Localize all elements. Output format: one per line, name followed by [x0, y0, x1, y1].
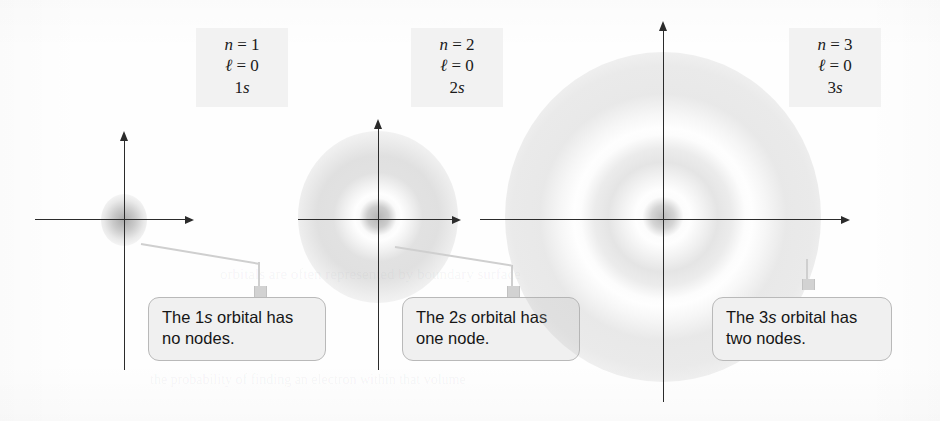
qn-term-1s: 1s	[206, 78, 278, 99]
callout-leader-stem-3s	[806, 259, 808, 281]
callout-1s: The 1s orbital has no nodes.	[148, 297, 326, 361]
ghost-text-line-1: orbitals are often represented by bounda…	[220, 266, 521, 283]
callout-leader-line-2s	[395, 246, 512, 266]
qn-n-3s: n = 3	[799, 35, 871, 56]
qn-term-letter-1s: s	[243, 78, 250, 97]
qn-l-symbol-1s: ℓ	[225, 56, 232, 75]
qn-n-1s: n = 1	[206, 35, 278, 56]
qn-l-1s: ℓ = 0	[206, 56, 278, 77]
x-axis-2s	[298, 219, 454, 220]
qn-l-value-3s: = 0	[830, 56, 852, 75]
callout-leader-stem-1s	[258, 262, 260, 288]
callout-2s-line-1: The 2s orbital has	[416, 307, 566, 328]
quantum-numbers-3s: n = 3 ℓ = 0 3s	[789, 28, 881, 107]
qn-n-symbol-3s: n	[817, 35, 826, 54]
qn-term-letter-2s: s	[458, 78, 465, 97]
callout-3s-line-2: two nodes.	[726, 328, 878, 349]
y-axis-arrowhead-1s	[120, 131, 128, 141]
callout-1s-line-2: no nodes.	[162, 328, 312, 349]
y-axis-2s	[378, 128, 379, 370]
qn-n-value-2s: = 2	[452, 35, 474, 54]
callout-leader-pin-2s	[507, 286, 520, 297]
qn-n-symbol-2s: n	[439, 35, 448, 54]
callout-2s-line-2: one node.	[416, 328, 566, 349]
qn-term-2s: 2s	[421, 78, 493, 99]
quantum-numbers-2s: n = 2 ℓ = 0 2s	[411, 28, 503, 107]
callout-leader-stem-2s	[511, 265, 513, 288]
callout-3s: The 3s orbital has two nodes.	[712, 297, 892, 361]
callout-leader-line-1s	[141, 243, 259, 265]
x-axis-arrowhead-1s	[185, 216, 194, 224]
qn-term-number-2s: 2	[449, 78, 458, 97]
qn-l-symbol-3s: ℓ	[818, 56, 825, 75]
orbital-figure: orbitals are often represented by bounda…	[0, 0, 940, 421]
qn-n-value-3s: = 3	[830, 35, 852, 54]
qn-term-number-1s: 1	[234, 78, 243, 97]
x-axis-1s	[35, 219, 187, 220]
x-axis-3s	[480, 219, 843, 220]
ghost-text-line-2: the probability of finding an electron w…	[150, 372, 466, 388]
x-axis-arrowhead-2s	[452, 216, 461, 224]
qn-term-letter-3s: s	[836, 78, 843, 97]
y-axis-arrowhead-3s	[659, 21, 667, 31]
y-axis-1s	[124, 140, 125, 370]
qn-n-symbol-1s: n	[224, 35, 233, 54]
callout-leader-pin-3s	[802, 279, 815, 290]
quantum-numbers-1s: n = 1 ℓ = 0 1s	[196, 28, 288, 107]
callout-1s-pre: The 1	[162, 308, 204, 326]
qn-term-3s: 3s	[799, 78, 871, 99]
x-axis-arrowhead-3s	[841, 216, 850, 224]
qn-term-number-3s: 3	[827, 78, 836, 97]
qn-n-2s: n = 2	[421, 35, 493, 56]
qn-l-2s: ℓ = 0	[421, 56, 493, 77]
callout-2s: The 2s orbital has one node.	[402, 297, 580, 361]
qn-n-value-1s: = 1	[237, 35, 259, 54]
callout-3s-post: orbital has	[776, 308, 857, 326]
qn-l-symbol-2s: ℓ	[440, 56, 447, 75]
callout-2s-post: orbital has	[466, 308, 547, 326]
y-axis-arrowhead-2s	[374, 119, 382, 129]
callout-1s-line-1: The 1s orbital has	[162, 307, 312, 328]
callout-3s-pre: The 3	[726, 308, 768, 326]
callout-1s-post: orbital has	[212, 308, 293, 326]
qn-l-3s: ℓ = 0	[799, 56, 871, 77]
callout-2s-pre: The 2	[416, 308, 458, 326]
qn-l-value-2s: = 0	[452, 56, 474, 75]
y-axis-3s	[663, 30, 664, 402]
callout-leader-pin-1s	[254, 286, 267, 297]
qn-l-value-1s: = 0	[237, 56, 259, 75]
callout-3s-line-1: The 3s orbital has	[726, 307, 878, 328]
